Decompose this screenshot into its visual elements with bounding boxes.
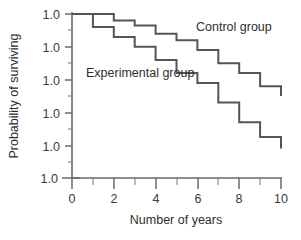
- survival-curve-figure: 1.0 1.0 1.0 1.0 1.0 1.0 0 2 4 6: [0, 0, 301, 240]
- control-group-label: Control group: [196, 20, 272, 34]
- x-tick-label: 10: [274, 192, 288, 206]
- y-tick-label: 1.0: [43, 41, 60, 55]
- x-tick-label: 8: [236, 192, 243, 206]
- series-curves: [72, 14, 281, 148]
- y-tick-label: 1.0: [43, 74, 60, 88]
- y-tick-label: 1.0: [43, 8, 60, 22]
- x-axis-ticks: [72, 178, 281, 189]
- y-tick-label: 1.0: [41, 172, 58, 186]
- y-tick-label: 1.0: [43, 107, 60, 121]
- x-axis-tick-labels: 0 2 4 6 8 10: [69, 192, 288, 206]
- y-axis-tick-labels: 1.0 1.0 1.0 1.0 1.0 1.0: [41, 8, 60, 186]
- experimental-group-label: Experimental group: [86, 66, 194, 80]
- x-tick-label: 4: [153, 192, 160, 206]
- y-tick-label: 1.0: [43, 140, 60, 154]
- x-tick-label: 2: [111, 192, 118, 206]
- y-axis-ticks: [62, 14, 80, 178]
- y-axis-title: Probability of surviving: [7, 33, 21, 158]
- x-axis-title: Number of years: [130, 213, 222, 227]
- x-tick-label: 6: [195, 192, 202, 206]
- chart-canvas: 1.0 1.0 1.0 1.0 1.0 1.0 0 2 4 6: [0, 0, 301, 240]
- x-tick-label: 0: [69, 192, 76, 206]
